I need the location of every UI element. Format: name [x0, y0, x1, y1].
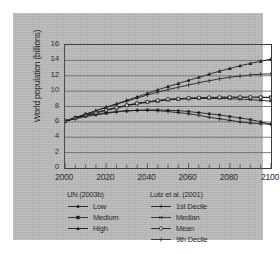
x-tick-label: 2040 [131, 173, 161, 182]
legend-marker-vline-icon [150, 234, 172, 245]
data-point-marker [115, 106, 118, 109]
plot-area: World population (billions) 024681012141… [13, 13, 263, 183]
data-point-marker [207, 115, 211, 119]
data-point-marker [228, 96, 231, 99]
data-point-marker [269, 96, 271, 99]
data-point-marker [125, 104, 128, 107]
data-point-marker [145, 108, 149, 112]
data-point-marker [76, 216, 79, 219]
legend-item-low[interactable]: Low [67, 201, 118, 212]
legend-item-label: Median [176, 212, 199, 223]
legend-item-label: 9th Decile [176, 234, 207, 245]
data-point-marker [259, 96, 262, 99]
legend-item-label: Medium [93, 212, 118, 223]
y-tick-label: 10 [41, 86, 59, 94]
data-point-marker [125, 109, 129, 113]
x-tick-label: 2060 [173, 173, 203, 182]
legend-item-label: 1st Decile [176, 201, 207, 212]
legend-marker-square-icon [67, 212, 89, 223]
legend-item-high[interactable]: High [67, 223, 118, 234]
data-point-marker [269, 57, 271, 61]
legend-title: Lutz et al. (2001) [150, 190, 207, 199]
legend-item-median[interactable]: Median [150, 212, 207, 223]
legend-title: UN (2003b) [67, 190, 118, 199]
data-point-marker [238, 120, 242, 124]
data-point-marker [208, 96, 211, 99]
legend-item-mean[interactable]: Mean [150, 223, 207, 234]
data-point-marker [156, 99, 159, 102]
data-point-marker [135, 102, 138, 105]
x-tick-label: 2000 [49, 173, 79, 182]
figure-container: World population (billions) 024681012141… [0, 0, 276, 254]
legend-marker-plus-icon [150, 201, 172, 212]
x-tick-label: 2100 [255, 173, 276, 182]
legend-item-medium[interactable]: Medium [67, 212, 118, 223]
y-tick-label: 6 [41, 117, 59, 125]
y-tick-label: 4 [41, 132, 59, 140]
scanned-figure-panel: World population (billions) 024681012141… [13, 13, 263, 240]
legend-group-un: UN (2003b)LowMediumHigh [67, 190, 118, 234]
legend-marker-triangle-icon [67, 223, 89, 234]
data-point-marker [269, 100, 271, 103]
legend-group-lutz: Lutz et al. (2001)1st DecileMedianMean9t… [150, 190, 207, 245]
data-point-marker [77, 205, 80, 208]
y-tick-label: 8 [41, 102, 59, 110]
y-tick-label: 0 [41, 163, 59, 171]
data-point-marker [218, 96, 221, 99]
data-point-marker [249, 118, 252, 121]
data-point-marker [239, 117, 242, 120]
data-point-marker [218, 117, 222, 121]
data-point-marker [229, 115, 232, 118]
data-point-marker [135, 108, 139, 112]
y-tick-label: 2 [41, 148, 59, 156]
data-point-marker [238, 96, 241, 99]
data-point-marker [159, 216, 163, 219]
data-point-marker [156, 109, 160, 113]
data-point-marker [159, 227, 162, 230]
legend-item-9th-decile[interactable]: 9th Decile [150, 234, 207, 245]
data-point-marker [249, 96, 252, 99]
data-point-marker [166, 97, 169, 100]
data-point-marker [177, 97, 180, 100]
x-tick-label: 2080 [214, 173, 244, 182]
legend-marker-asterisk-icon [150, 212, 172, 223]
data-point-marker [197, 113, 201, 117]
y-tick-label: 14 [41, 55, 59, 63]
legend-item-label: Low [93, 201, 106, 212]
data-point-marker [218, 114, 221, 117]
legend-item-1st-decile[interactable]: 1st Decile [150, 201, 207, 212]
data-point-marker [159, 205, 163, 209]
legend-marker-circle-icon [150, 223, 172, 234]
data-point-marker [208, 113, 211, 116]
legend-item-label: High [93, 223, 108, 234]
legend-marker-square-small-icon [67, 201, 89, 212]
data-point-marker [187, 112, 191, 116]
x-tick-label: 2020 [90, 173, 120, 182]
y-tick-label: 16 [41, 40, 59, 48]
y-tick-label: 12 [41, 71, 59, 79]
data-point-marker [197, 96, 200, 99]
data-point-marker [146, 100, 149, 103]
data-point-marker [269, 122, 271, 126]
plot-frame [64, 44, 272, 169]
data-point-marker [115, 109, 119, 113]
data-point-marker [187, 96, 190, 99]
chart-lines-svg [65, 45, 271, 168]
legend-item-label: Mean [176, 223, 194, 234]
